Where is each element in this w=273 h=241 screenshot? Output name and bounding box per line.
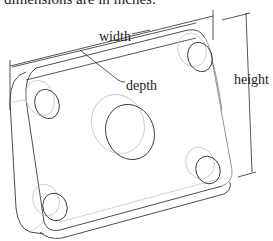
height-dimension: [222, 13, 256, 177]
technical-drawing: dimensions are in inches.: [0, 0, 273, 241]
hole-bottom-left: [28, 181, 71, 225]
width-label: width: [99, 30, 131, 44]
hole-bottom-right: [181, 143, 224, 187]
hole-top-right: [173, 29, 216, 75]
depth-label: depth: [126, 79, 157, 93]
plate-thickness: [10, 60, 230, 238]
hole-center: [83, 87, 162, 167]
plate-drawing: [0, 0, 273, 241]
height-label: height: [234, 73, 269, 87]
caption-text: dimensions are in inches.: [4, 0, 156, 8]
